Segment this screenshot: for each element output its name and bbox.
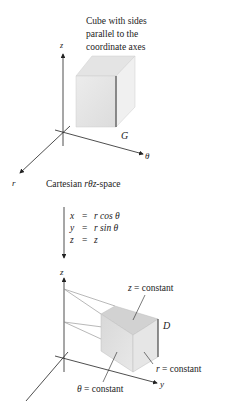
r-constant-label: r = constant [156, 364, 202, 374]
transform-equations: x=r cos θ y=r sin θ z=z [64, 207, 120, 258]
region-D [101, 306, 158, 372]
z-axis-label-bottom: z [59, 267, 64, 277]
r-axis [20, 126, 70, 173]
region-G-label: G [121, 130, 128, 141]
z-constant-label: z = constant [127, 283, 174, 293]
r-axis-label: r [12, 178, 16, 188]
region-D-label: D [162, 320, 171, 331]
theta-axis [55, 130, 143, 154]
cylindrical-coordinates-diagram: Cube with sides parallel to the coordina… [0, 0, 227, 401]
theta-axis-label: θ [145, 151, 150, 161]
equation-z: z=z [69, 235, 98, 245]
cube-G [76, 56, 135, 127]
cartesian-space-label: Cartesian rθz-space [46, 179, 121, 189]
x-axis [26, 352, 68, 401]
top-figure: Cube with sides parallel to the coordina… [12, 16, 150, 189]
bottom-figure: z y D z = constant r = constant [26, 267, 202, 401]
z-axis-label-top: z [59, 41, 64, 50]
equation-y: y=r sin θ [69, 223, 119, 233]
y-axis-label: y [159, 379, 164, 389]
equation-x: x=r cos θ [69, 211, 120, 221]
cube-caption: Cube with sides parallel to the coordina… [86, 16, 149, 52]
theta-constant-label: θ = constant [77, 384, 124, 394]
